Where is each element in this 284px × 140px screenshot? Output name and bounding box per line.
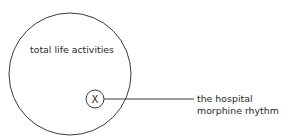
callout-label-line1: the hospital (197, 93, 253, 104)
callout-label-line2: morphine rhythm (197, 105, 279, 116)
total-life-activities-circle (9, 13, 131, 135)
total-life-activities-label: total life activities (30, 44, 114, 55)
x-marker-label: X (92, 94, 99, 105)
diagram-canvas: total life activities X the hospital mor… (0, 0, 284, 140)
